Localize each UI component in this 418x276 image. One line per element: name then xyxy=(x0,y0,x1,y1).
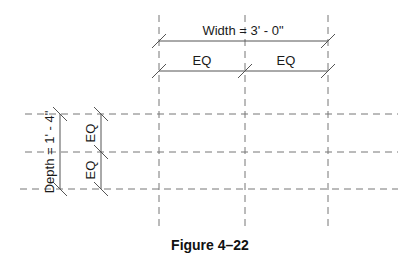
width-eq-label-2: EQ xyxy=(277,53,296,68)
depth-eq-label-1: EQ xyxy=(83,161,98,180)
figure-caption: Figure 4–22 xyxy=(171,237,249,253)
dimension-diagram: Width = 3' - 0" EQ EQ Depth = 1' - 4" EQ… xyxy=(0,0,418,276)
width-eq-dimension[interactable] xyxy=(152,64,335,78)
vertical-reference-lines xyxy=(159,15,328,228)
width-eq-label-1: EQ xyxy=(193,53,212,68)
depth-eq-dimension[interactable] xyxy=(94,107,108,196)
horizontal-reference-lines xyxy=(20,114,398,189)
depth-dimension-label: Depth = 1' - 4" xyxy=(42,110,57,193)
depth-eq-label-2: EQ xyxy=(83,124,98,143)
width-dimension-label: Width = 3' - 0" xyxy=(202,23,284,38)
